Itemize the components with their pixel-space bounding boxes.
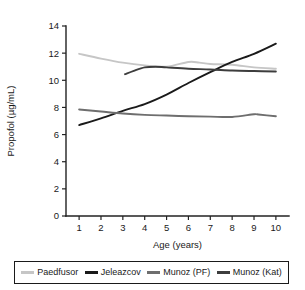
propofol-age-line-chart: 0246810121412345678910Age (years)Propofo… <box>0 0 305 290</box>
x-tick-label: 7 <box>208 222 213 233</box>
y-tick-label: 6 <box>54 129 59 140</box>
legend-item: Paedfusor <box>21 268 78 277</box>
x-tick-label: 3 <box>120 222 125 233</box>
plot-area: 0246810121412345678910Age (years)Propofo… <box>0 0 305 262</box>
legend-label: Jeleazcov <box>101 268 141 277</box>
x-tick-label: 8 <box>230 222 235 233</box>
legend-label: Munoz (PF) <box>163 268 210 277</box>
x-tick-label: 4 <box>142 222 147 233</box>
x-tick-label: 10 <box>271 222 282 233</box>
legend-item: Munoz (PF) <box>147 268 210 277</box>
y-tick-label: 8 <box>54 102 59 113</box>
y-tick-label: 0 <box>54 210 59 221</box>
x-tick-label: 2 <box>98 222 103 233</box>
chart-canvas: 0246810121412345678910Age (years)Propofo… <box>0 0 305 262</box>
y-tick-label: 14 <box>48 20 59 31</box>
x-tick-label: 6 <box>186 222 191 233</box>
legend-swatch-icon <box>21 271 34 273</box>
y-tick-label: 12 <box>48 48 59 59</box>
legend-label: Munoz (Kat) <box>233 268 282 277</box>
legend-swatch-icon <box>147 271 160 273</box>
y-tick-label: 2 <box>54 183 59 194</box>
legend-item: Munoz (Kat) <box>217 268 282 277</box>
x-tick-label: 5 <box>164 222 169 233</box>
x-tick-label: 9 <box>251 222 256 233</box>
legend-label: Paedfusor <box>37 268 78 277</box>
x-axis-title: Age (years) <box>153 239 202 250</box>
chart-legend: PaedfusorJeleazcovMunoz (PF)Munoz (Kat) <box>14 261 289 284</box>
y-tick-label: 10 <box>48 75 59 86</box>
y-axis-title: Propofol (µg/mL) <box>5 86 16 157</box>
legend-item: Jeleazcov <box>85 268 141 277</box>
legend-swatch-icon <box>85 271 98 273</box>
y-tick-label: 4 <box>54 156 59 167</box>
legend-swatch-icon <box>217 271 230 273</box>
x-tick-label: 1 <box>76 222 81 233</box>
